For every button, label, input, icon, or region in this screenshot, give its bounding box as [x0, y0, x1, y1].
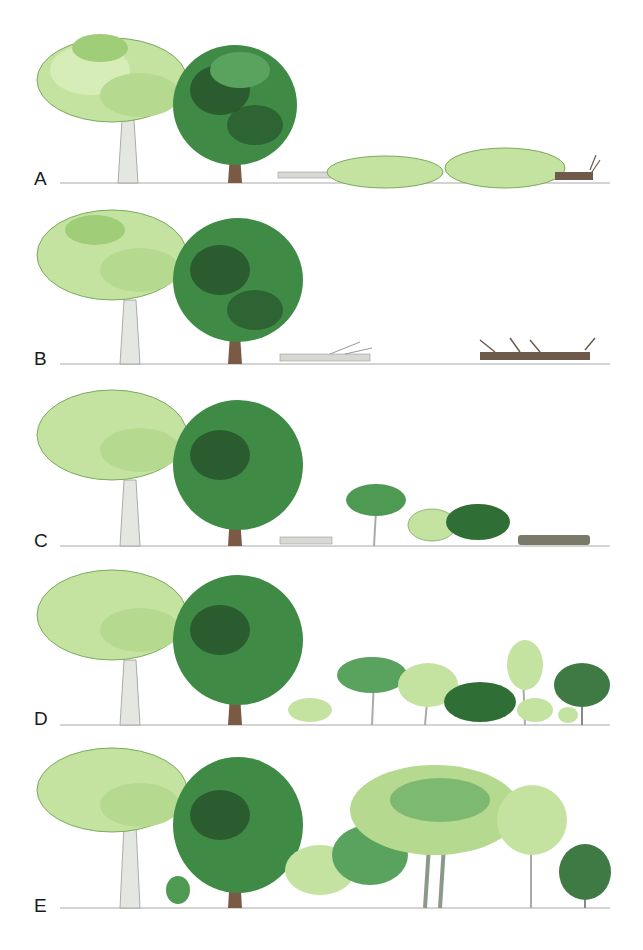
dark-canopy-tree — [173, 218, 303, 364]
panel-e-illustration — [0, 730, 643, 950]
light-canopy-tree — [37, 390, 187, 546]
fallen-log-dark — [518, 535, 590, 545]
gap-tree-large — [350, 765, 520, 908]
shrub — [288, 698, 332, 722]
shrub-dark — [446, 504, 510, 540]
panel-label: E — [34, 895, 47, 917]
sapling-1 — [346, 484, 406, 546]
dark-canopy-tree — [173, 45, 297, 183]
young-tree-1 — [337, 657, 407, 725]
light-canopy-tree — [37, 210, 187, 364]
light-canopy-tree — [37, 748, 187, 908]
panel-label: D — [34, 708, 48, 730]
dark-canopy-tree — [173, 575, 303, 725]
panel-e: E — [0, 730, 643, 950]
gap-tree-dark — [559, 844, 611, 908]
light-canopy-tree — [37, 570, 187, 725]
gap-tree-tall — [497, 785, 567, 908]
panel-a: A — [0, 0, 643, 190]
fallen-log-light — [280, 537, 332, 544]
fallen-crown-2 — [445, 148, 600, 188]
bush-small — [558, 707, 578, 723]
seedling — [166, 876, 190, 904]
panel-c: C — [0, 370, 643, 550]
dark-canopy-tree — [173, 400, 303, 546]
panel-c-illustration — [0, 370, 643, 550]
panel-b: B — [0, 190, 643, 370]
panel-b-illustration — [0, 190, 643, 370]
panel-label: A — [34, 168, 47, 190]
panel-d-illustration — [0, 550, 643, 730]
fallen-log-dark — [480, 338, 595, 360]
panel-label: C — [34, 530, 48, 552]
panel-label: B — [34, 348, 47, 370]
bush — [517, 698, 553, 722]
fallen-log-light — [280, 342, 372, 361]
panel-d: D — [0, 550, 643, 730]
shrub-dark — [444, 682, 516, 722]
dark-canopy-tree — [173, 757, 303, 908]
light-canopy-tree — [37, 34, 187, 183]
panel-a-illustration — [0, 0, 643, 190]
